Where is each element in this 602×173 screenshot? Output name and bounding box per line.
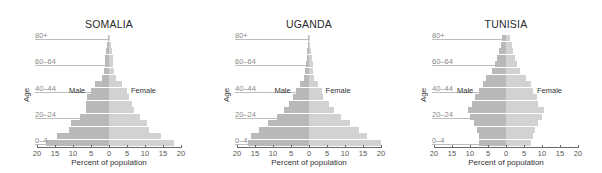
age-guide-line xyxy=(432,144,479,145)
x-tick-label: 0 xyxy=(307,149,311,158)
male-bar xyxy=(251,133,309,139)
male-label: Male xyxy=(69,86,85,95)
female-bar xyxy=(109,55,113,61)
female-bar xyxy=(309,81,318,87)
x-tick-label: 5 xyxy=(89,149,93,158)
x-tick xyxy=(163,145,164,148)
female-label: Female xyxy=(326,86,351,95)
x-tick xyxy=(291,145,292,148)
age-guide-line xyxy=(432,39,502,40)
x-tick-label: 15 xyxy=(51,149,59,158)
female-bar xyxy=(109,120,147,126)
female-bar xyxy=(506,75,526,81)
female-bar xyxy=(109,133,161,139)
female-bar xyxy=(506,94,537,100)
male-bar xyxy=(497,55,506,61)
age-guide-line xyxy=(432,118,470,119)
x-tick-label: 20 xyxy=(233,149,241,158)
female-bar xyxy=(506,35,510,41)
x-tick xyxy=(91,145,92,148)
x-tick-label: 10 xyxy=(466,149,474,158)
x-tick-label: 20 xyxy=(377,149,385,158)
female-bar xyxy=(109,61,113,67)
x-tick-label: 20 xyxy=(33,149,41,158)
female-bar xyxy=(309,48,311,54)
female-bar xyxy=(309,133,367,139)
x-tick-label: 10 xyxy=(341,149,349,158)
x-tick-label: 15 xyxy=(556,149,564,158)
x-tick xyxy=(55,145,56,148)
female-bar xyxy=(506,114,542,120)
x-tick-label: 0 xyxy=(504,149,508,158)
female-bar xyxy=(309,68,313,74)
chart-title: UGANDA xyxy=(209,18,409,30)
x-tick xyxy=(560,145,561,148)
x-tick-label: 5 xyxy=(522,149,526,158)
female-bar xyxy=(506,48,513,54)
female-bar xyxy=(506,120,538,126)
female-bar xyxy=(109,94,129,100)
female-bar xyxy=(309,75,314,81)
female-bar xyxy=(109,68,114,74)
female-bar xyxy=(506,61,517,67)
x-tick xyxy=(37,145,38,148)
male-bar xyxy=(296,88,309,94)
male-bar xyxy=(91,88,109,94)
x-tick-label: 10 xyxy=(141,149,149,158)
male-label: Male xyxy=(274,86,290,95)
male-label: Male xyxy=(457,86,473,95)
female-bar xyxy=(109,48,112,54)
female-bar xyxy=(309,114,341,120)
x-tick-label: 5 xyxy=(486,149,490,158)
male-bar xyxy=(470,114,506,120)
x-tick xyxy=(488,145,489,148)
female-bar xyxy=(309,61,313,67)
male-bar xyxy=(259,127,309,133)
x-tick xyxy=(145,145,146,148)
chart-title: SOMALIA xyxy=(9,18,209,30)
female-bar xyxy=(109,75,116,81)
female-bar xyxy=(506,140,531,146)
age-guide-line xyxy=(35,118,80,119)
female-bar xyxy=(309,107,334,113)
male-bar xyxy=(248,140,309,146)
x-axis-label: Percent of population xyxy=(49,158,169,167)
x-tick xyxy=(309,145,310,148)
age-guide-line xyxy=(235,118,277,119)
female-bar xyxy=(506,133,533,139)
x-axis-label: Percent of population xyxy=(446,158,566,167)
x-tick xyxy=(237,145,238,148)
x-tick-label: 5 xyxy=(325,149,329,158)
female-bar xyxy=(109,35,110,41)
y-axis-label: Age xyxy=(419,88,428,102)
male-bar xyxy=(95,81,109,87)
age-guide-line xyxy=(235,39,308,40)
male-bar xyxy=(102,75,109,81)
female-bar xyxy=(109,127,149,133)
female-bar xyxy=(309,94,323,100)
x-tick-label: 15 xyxy=(448,149,456,158)
female-bar xyxy=(309,42,310,48)
x-tick xyxy=(181,145,182,148)
male-bar xyxy=(499,48,506,54)
x-tick xyxy=(381,145,382,148)
female-bar xyxy=(109,140,174,146)
y-axis-label: Age xyxy=(222,88,231,102)
male-bar xyxy=(495,61,506,67)
x-tick-label: 5 xyxy=(289,149,293,158)
x-axis-label: Percent of population xyxy=(249,158,369,167)
male-bar xyxy=(80,114,109,120)
female-bar xyxy=(506,68,520,74)
female-bar xyxy=(109,101,132,107)
x-tick-label: 15 xyxy=(159,149,167,158)
x-tick xyxy=(345,145,346,148)
female-bar xyxy=(109,107,134,113)
female-bar xyxy=(506,55,515,61)
female-bar xyxy=(309,55,312,61)
x-tick xyxy=(524,145,525,148)
x-tick xyxy=(434,145,435,148)
male-bar xyxy=(268,120,309,126)
x-tick-label: 20 xyxy=(177,149,185,158)
female-bar xyxy=(309,120,350,126)
x-tick-label: 20 xyxy=(574,149,582,158)
